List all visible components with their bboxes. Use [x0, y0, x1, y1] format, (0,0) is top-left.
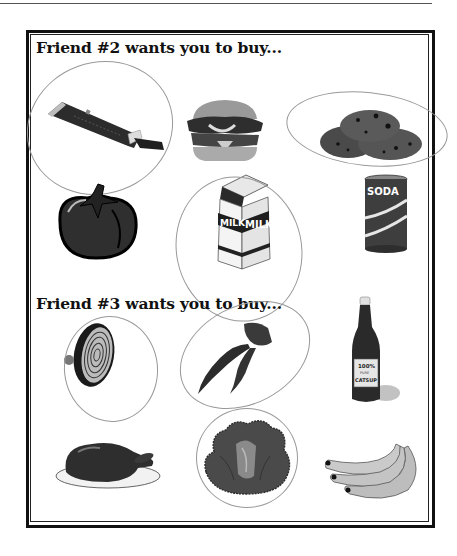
svg-text:PURE: PURE	[360, 371, 369, 375]
svg-text:CATSUP: CATSUP	[355, 377, 377, 383]
tomato-item[interactable]	[48, 182, 140, 264]
onion-icon	[64, 320, 118, 390]
ketchup-bottle-icon: 100% PURE CATSUP	[350, 295, 400, 407]
milk-carton-icon: MILK MILK	[212, 173, 272, 271]
tomato-icon	[48, 182, 140, 264]
chocolate-bar-icon	[44, 96, 169, 151]
hamburger-icon	[183, 97, 268, 165]
svg-text:SODA: SODA	[367, 186, 399, 197]
friend-2-heading: Friend #2 wants you to buy...	[36, 38, 282, 57]
friend-3-heading: Friend #3 wants you to buy...	[36, 294, 282, 313]
milk-carton-item[interactable]: MILK MILK	[212, 173, 272, 271]
chili-peppers-icon	[194, 318, 274, 398]
soda-can-icon: SODA	[362, 174, 410, 254]
chocolate-bar-item[interactable]	[44, 96, 169, 151]
cookies-item[interactable]	[318, 106, 424, 160]
chili-peppers-item[interactable]	[194, 318, 274, 398]
soda-can-item[interactable]: SODA	[362, 174, 410, 254]
lettuce-item[interactable]	[200, 416, 292, 498]
bananas-icon	[324, 444, 422, 500]
roast-turkey-item[interactable]	[52, 436, 160, 490]
cookies-icon	[318, 106, 424, 160]
bananas-item[interactable]	[324, 444, 422, 500]
svg-text:MILK: MILK	[245, 219, 274, 230]
page-header-rule	[0, 3, 432, 4]
ketchup-bottle-item[interactable]: 100% PURE CATSUP	[350, 295, 400, 407]
lettuce-icon	[200, 416, 292, 498]
roast-turkey-icon	[52, 436, 160, 490]
onion-item[interactable]	[64, 320, 118, 390]
svg-text:MILK: MILK	[220, 218, 246, 228]
svg-text:100%: 100%	[358, 363, 375, 369]
hamburger-item[interactable]	[183, 97, 268, 165]
